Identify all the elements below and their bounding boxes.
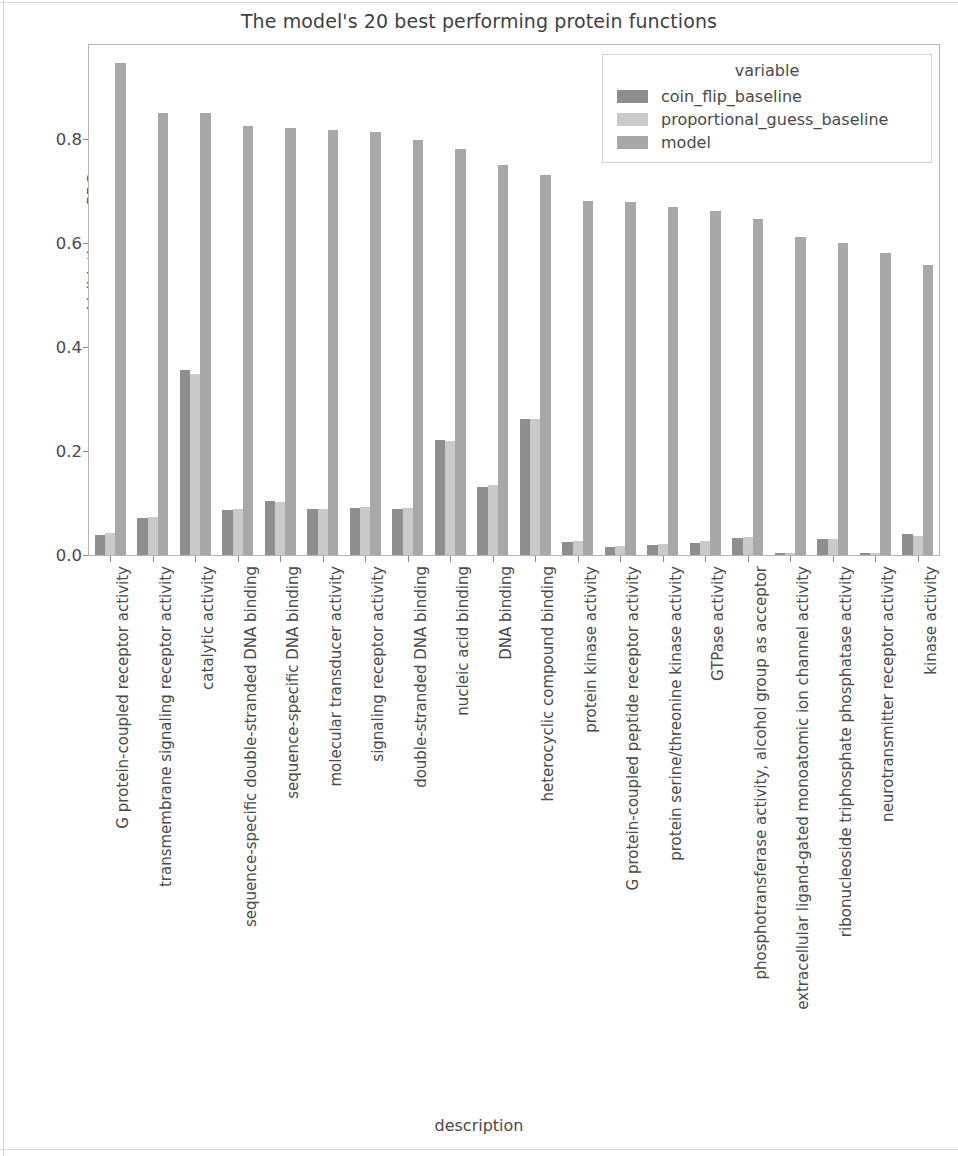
legend: variable coin_flip_baselineproportional_… xyxy=(602,54,932,163)
bar-prop xyxy=(233,509,243,555)
bar-model xyxy=(200,113,210,555)
bar-coin xyxy=(435,440,445,555)
bar-prop xyxy=(658,544,668,555)
bar-coin xyxy=(775,553,785,555)
bar-model xyxy=(328,130,338,555)
bar-coin xyxy=(690,543,700,555)
bar-model xyxy=(880,253,890,555)
bar-model xyxy=(753,219,763,555)
bar-prop xyxy=(488,485,498,555)
bar-coin xyxy=(350,508,360,555)
bar-group xyxy=(95,45,126,555)
bar-coin xyxy=(307,509,317,555)
legend-swatch-icon xyxy=(617,90,648,103)
bar-prop xyxy=(275,502,285,555)
bar-model xyxy=(710,211,720,555)
chart-title: The model's 20 best performing protein f… xyxy=(0,10,958,32)
x-axis-tick-mark xyxy=(450,556,451,562)
x-axis-tick-label: sequence-specific DNA binding xyxy=(286,566,301,799)
x-axis-label: description xyxy=(0,1116,958,1135)
x-axis-tick-label: neurotransmitter receptor activity xyxy=(881,566,896,822)
x-axis-tick-label: extracellular ligand-gated monoatomic io… xyxy=(796,566,811,1010)
x-axis-tick-label: sequence-specific double-stranded DNA bi… xyxy=(244,566,259,927)
bar-prop xyxy=(913,536,923,555)
bar-model xyxy=(498,165,508,555)
bar-model xyxy=(625,202,635,555)
bar-model xyxy=(540,175,550,555)
bar-coin xyxy=(392,509,402,555)
bar-prop xyxy=(743,537,753,555)
bar-group xyxy=(350,45,381,555)
bar-group xyxy=(265,45,296,555)
bar-prop xyxy=(360,507,370,555)
bar-prop xyxy=(190,374,200,555)
bar-group xyxy=(435,45,466,555)
x-axis-tick-mark xyxy=(195,556,196,562)
page-edge-left xyxy=(3,0,4,1156)
x-axis-tick-mark xyxy=(280,556,281,562)
bar-group xyxy=(222,45,253,555)
bar-prop xyxy=(615,546,625,555)
bar-model xyxy=(158,113,168,555)
bar-prop xyxy=(105,533,115,555)
bar-group xyxy=(562,45,593,555)
bar-coin xyxy=(647,545,657,555)
legend-entries: coin_flip_baselineproportional_guess_bas… xyxy=(611,85,923,154)
page-edge-bottom xyxy=(0,1149,958,1150)
x-axis-tick-label: phosphotransferase activity, alcohol gro… xyxy=(754,566,769,979)
bar-model xyxy=(115,63,125,555)
bar-model xyxy=(455,149,465,555)
bar-group xyxy=(520,45,551,555)
bar-model xyxy=(923,265,933,555)
bar-coin xyxy=(477,487,487,555)
x-axis-tick-label: GTPase activity xyxy=(711,566,726,681)
x-axis-tick-mark xyxy=(238,556,239,562)
bar-group xyxy=(477,45,508,555)
legend-entry: coin_flip_baseline xyxy=(611,85,923,108)
bar-prop xyxy=(445,441,455,555)
x-axis-tick-label: nucleic acid binding xyxy=(456,566,471,716)
bar-model xyxy=(285,128,295,555)
bar-prop xyxy=(785,553,795,555)
x-axis-tick-label: G protein-coupled receptor activity xyxy=(116,566,131,829)
legend-label: proportional_guess_baseline xyxy=(661,110,888,129)
legend-swatch-icon xyxy=(617,113,648,126)
bar-model xyxy=(583,201,593,555)
x-axis-tick-label: signaling receptor activity xyxy=(371,566,386,762)
x-axis-tick-label: double-stranded DNA binding xyxy=(414,566,429,788)
x-axis-tick-mark xyxy=(323,556,324,562)
x-axis-tick-mark xyxy=(790,556,791,562)
x-axis-tick-label: transmembrane signaling receptor activit… xyxy=(159,566,174,887)
bar-model xyxy=(243,126,253,555)
bar-coin xyxy=(902,534,912,555)
bar-model xyxy=(668,207,678,555)
bar-prop xyxy=(828,539,838,555)
x-axis-tick-label: molecular transducer activity xyxy=(329,566,344,787)
bar-coin xyxy=(137,518,147,555)
bar-coin xyxy=(817,539,827,555)
bar-coin xyxy=(180,370,190,555)
x-axis-tick-label: heterocyclic compound binding xyxy=(541,566,556,802)
bar-model xyxy=(838,243,848,555)
legend-title: variable xyxy=(611,61,923,80)
bar-prop xyxy=(530,419,540,555)
bar-prop xyxy=(148,517,158,555)
x-axis-tick-label: kinase activity xyxy=(924,566,939,675)
legend-entry: model xyxy=(611,131,923,154)
bar-coin xyxy=(95,535,105,555)
bar-prop xyxy=(700,541,710,555)
x-axis-tick-mark xyxy=(705,556,706,562)
x-axis-tick-mark xyxy=(578,556,579,562)
legend-label: model xyxy=(661,133,711,152)
x-axis-tick-mark xyxy=(408,556,409,562)
bar-coin xyxy=(222,510,232,555)
bar-model xyxy=(795,237,805,555)
x-axis-tick-label: ribonucleoside triphosphate phosphatase … xyxy=(839,566,854,937)
y-axis-tick-label: 0.8 xyxy=(38,129,82,148)
x-axis-tick-label: DNA binding xyxy=(499,566,514,660)
x-axis-tick-mark xyxy=(535,556,536,562)
x-axis-tick-label: protein serine/threonine kinase activity xyxy=(669,566,684,861)
x-axis-tick-mark xyxy=(918,556,919,562)
y-axis-tick-label: 0.4 xyxy=(38,337,82,356)
bar-prop xyxy=(870,553,880,555)
